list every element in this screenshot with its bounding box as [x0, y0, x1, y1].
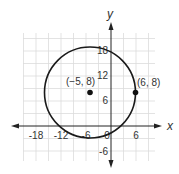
edge-point-label: (6, 8): [137, 77, 160, 88]
y-axis-down-arrow-icon: [109, 160, 114, 168]
x-axis-left-arrow-icon: [11, 124, 19, 129]
coordinate-plane: x y -18 -12 -6 0 6 18 12 6 -6 (−5, 8) (6…: [0, 0, 179, 174]
edge-point: [133, 90, 139, 96]
x-axis-right-arrow-icon: [154, 124, 162, 129]
x-axis-label: x: [166, 119, 174, 133]
y-tick-label: 12: [97, 70, 109, 81]
y-tick-label: -6: [99, 146, 108, 157]
y-tick-label: 6: [102, 95, 108, 106]
y-axis-up-arrow-icon: [109, 22, 114, 30]
y-axis: [109, 22, 114, 168]
x-axis: [11, 124, 162, 129]
center-point-label: (−5, 8): [66, 76, 95, 87]
x-tick-label: 6: [133, 130, 139, 141]
center-point: [87, 90, 93, 96]
y-axis-label: y: [106, 7, 114, 21]
x-tick-label: -6: [82, 130, 91, 141]
x-tick-label: -18: [29, 130, 44, 141]
